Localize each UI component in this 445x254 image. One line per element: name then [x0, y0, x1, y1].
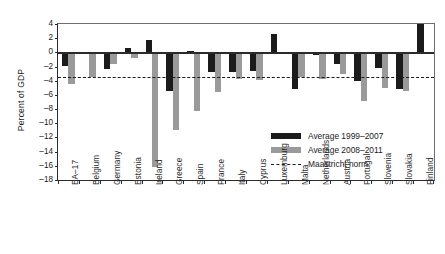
y-axis-tick-label: –16 — [13, 160, 53, 169]
bar — [256, 52, 262, 80]
x-axis-tick-label: Austria — [343, 159, 352, 185]
bar — [215, 52, 221, 92]
maastricht-norm-line — [58, 77, 434, 78]
y-axis-tick-mark — [55, 123, 59, 124]
bar — [152, 52, 158, 167]
bar — [173, 52, 179, 130]
bar — [403, 52, 409, 91]
y-axis-tick-label: –18 — [13, 175, 53, 184]
bar — [236, 52, 242, 79]
legend-label-average-1999-2007: Average 1999–2007 — [308, 131, 383, 141]
y-axis-tick-mark — [55, 24, 59, 25]
x-axis-tick-label: Malta — [301, 164, 310, 185]
bar — [68, 52, 74, 84]
x-axis-tick-label: Belgium — [92, 155, 101, 185]
y-axis-tick-mark — [55, 38, 59, 39]
y-axis-tick-mark — [55, 52, 59, 53]
bar — [334, 52, 340, 64]
bar — [89, 52, 95, 77]
deficit-bar-chart: Percent of GDP Average 1999–2007 Average… — [0, 0, 445, 254]
bar — [194, 52, 200, 111]
y-axis-tick-mark — [55, 95, 59, 96]
x-axis-tick-label: France — [217, 159, 226, 185]
y-axis-tick-label: 4 — [13, 19, 53, 28]
legend-swatch-black-icon — [271, 133, 301, 139]
y-axis-tick-mark — [55, 137, 59, 138]
bar — [104, 52, 110, 68]
bar — [319, 52, 325, 78]
bar — [298, 52, 304, 77]
x-axis-tick-label: Luxemburg — [280, 143, 289, 185]
y-axis-tick-mark — [55, 67, 59, 68]
bar — [382, 52, 388, 87]
x-axis-tick-label: Greece — [175, 158, 184, 185]
x-axis-tick-mark — [58, 180, 59, 184]
y-axis-tick-label: –6 — [13, 89, 53, 98]
x-axis-tick-label: Estonia — [134, 157, 143, 185]
x-axis-tick-label: Germany — [113, 151, 122, 185]
y-axis-tick-label: –14 — [13, 146, 53, 155]
y-axis-tick-mark — [55, 109, 59, 110]
legend-item-average-1999-2007: Average 1999–2007 — [271, 129, 431, 143]
y-axis-tick-label: 2 — [13, 33, 53, 42]
y-axis-tick-label: –4 — [13, 75, 53, 84]
bar — [417, 24, 423, 52]
bar — [292, 52, 298, 88]
y-axis-tick-label: –12 — [13, 132, 53, 141]
x-axis-tick-label: Spain — [196, 164, 205, 185]
x-axis-tick-label: EA–17 — [71, 160, 80, 185]
x-axis-tick-label: Slovenia — [384, 153, 393, 185]
x-axis-tick-label: Netherlands — [322, 140, 331, 185]
legend-label-maastricht-norm: Maastricht norm — [308, 159, 368, 169]
x-axis-tick-label: Italy — [238, 169, 247, 185]
bar — [110, 52, 116, 64]
bar — [271, 34, 277, 52]
zero-baseline — [58, 52, 434, 53]
x-axis-tick-label: Finland — [426, 157, 435, 185]
y-axis-tick-label: –2 — [13, 61, 53, 70]
y-axis-tick-mark — [55, 166, 59, 167]
bar — [146, 40, 152, 52]
y-axis-tick-label: –10 — [13, 118, 53, 127]
y-axis-tick-mark — [55, 152, 59, 153]
x-axis-tick-label: Cyprus — [259, 158, 268, 185]
x-axis-tick-label: Slovakia — [405, 153, 414, 185]
y-axis-tick-mark — [55, 81, 59, 82]
x-axis-tick-label: Portugal — [363, 154, 372, 185]
y-axis-tick-label: 0 — [13, 47, 53, 56]
bar — [340, 52, 346, 73]
x-axis-tick-label: Ireland — [155, 159, 164, 185]
y-axis-tick-label: –8 — [13, 104, 53, 113]
